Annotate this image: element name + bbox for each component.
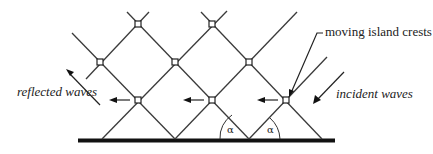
arrow-left-icon	[257, 97, 265, 103]
arrow-up-left-icon	[66, 69, 74, 76]
moving-island-crests-label: moving island crests	[325, 24, 432, 40]
arrow-left-icon	[109, 97, 117, 103]
crest-node	[209, 97, 215, 103]
crest-node	[172, 59, 178, 65]
reflected-wave-lines	[72, 12, 322, 139]
island-crest-nodes	[97, 21, 289, 103]
crest-node	[135, 97, 141, 103]
crest-node	[97, 59, 103, 65]
angle-alpha-left: α	[227, 124, 234, 135]
incident-waves-label: incident waves	[336, 86, 413, 102]
arrow-left-icon	[183, 97, 191, 103]
incident-wave-lines	[86, 11, 327, 139]
crests-leader-line	[291, 33, 323, 93]
crest-node	[135, 21, 141, 27]
wall-base	[78, 139, 335, 143]
crest-node	[209, 21, 215, 27]
crest-node	[246, 59, 252, 65]
crest-node	[283, 97, 289, 103]
angle-alpha-right: α	[267, 124, 274, 135]
reflected-waves-label: reflected waves	[17, 84, 97, 100]
